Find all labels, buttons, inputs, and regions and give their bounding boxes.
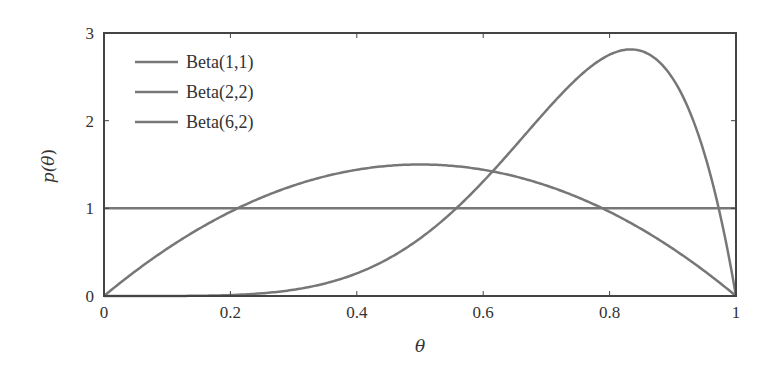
y-tick-label: 1 bbox=[86, 199, 95, 218]
legend: Beta(1,1) Beta(2,2) Beta(6,2) bbox=[135, 52, 253, 133]
x-axis-ticks: 00.20.40.60.81 bbox=[100, 33, 741, 322]
y-tick-label: 0 bbox=[86, 287, 95, 306]
x-tick-label: 1 bbox=[732, 303, 741, 322]
chart-canvas: 00.20.40.60.81 0123 θ p(θ) Beta(1,1) Bet… bbox=[0, 0, 776, 375]
y-axis-label: p(θ) bbox=[38, 149, 58, 183]
x-tick-label: 0.4 bbox=[346, 303, 368, 322]
svg-text:Beta(6,2): Beta(6,2) bbox=[186, 112, 253, 133]
y-tick-label: 2 bbox=[86, 112, 95, 131]
x-tick-label: 0 bbox=[100, 303, 109, 322]
curve-beta-2-2 bbox=[104, 165, 736, 297]
x-axis-label: θ bbox=[415, 336, 425, 356]
svg-text:p(θ): p(θ) bbox=[38, 149, 58, 183]
legend-item: Beta(2,2) bbox=[135, 82, 253, 103]
svg-text:Beta(2,2): Beta(2,2) bbox=[186, 82, 253, 103]
x-tick-label: 0.8 bbox=[599, 303, 620, 322]
x-tick-label: 0.6 bbox=[473, 303, 494, 322]
x-tick-label: 0.2 bbox=[220, 303, 241, 322]
svg-text:Beta(1,1): Beta(1,1) bbox=[186, 52, 253, 73]
legend-item: Beta(6,2) bbox=[135, 112, 253, 133]
legend-item: Beta(1,1) bbox=[135, 52, 253, 73]
y-tick-label: 3 bbox=[86, 24, 95, 43]
